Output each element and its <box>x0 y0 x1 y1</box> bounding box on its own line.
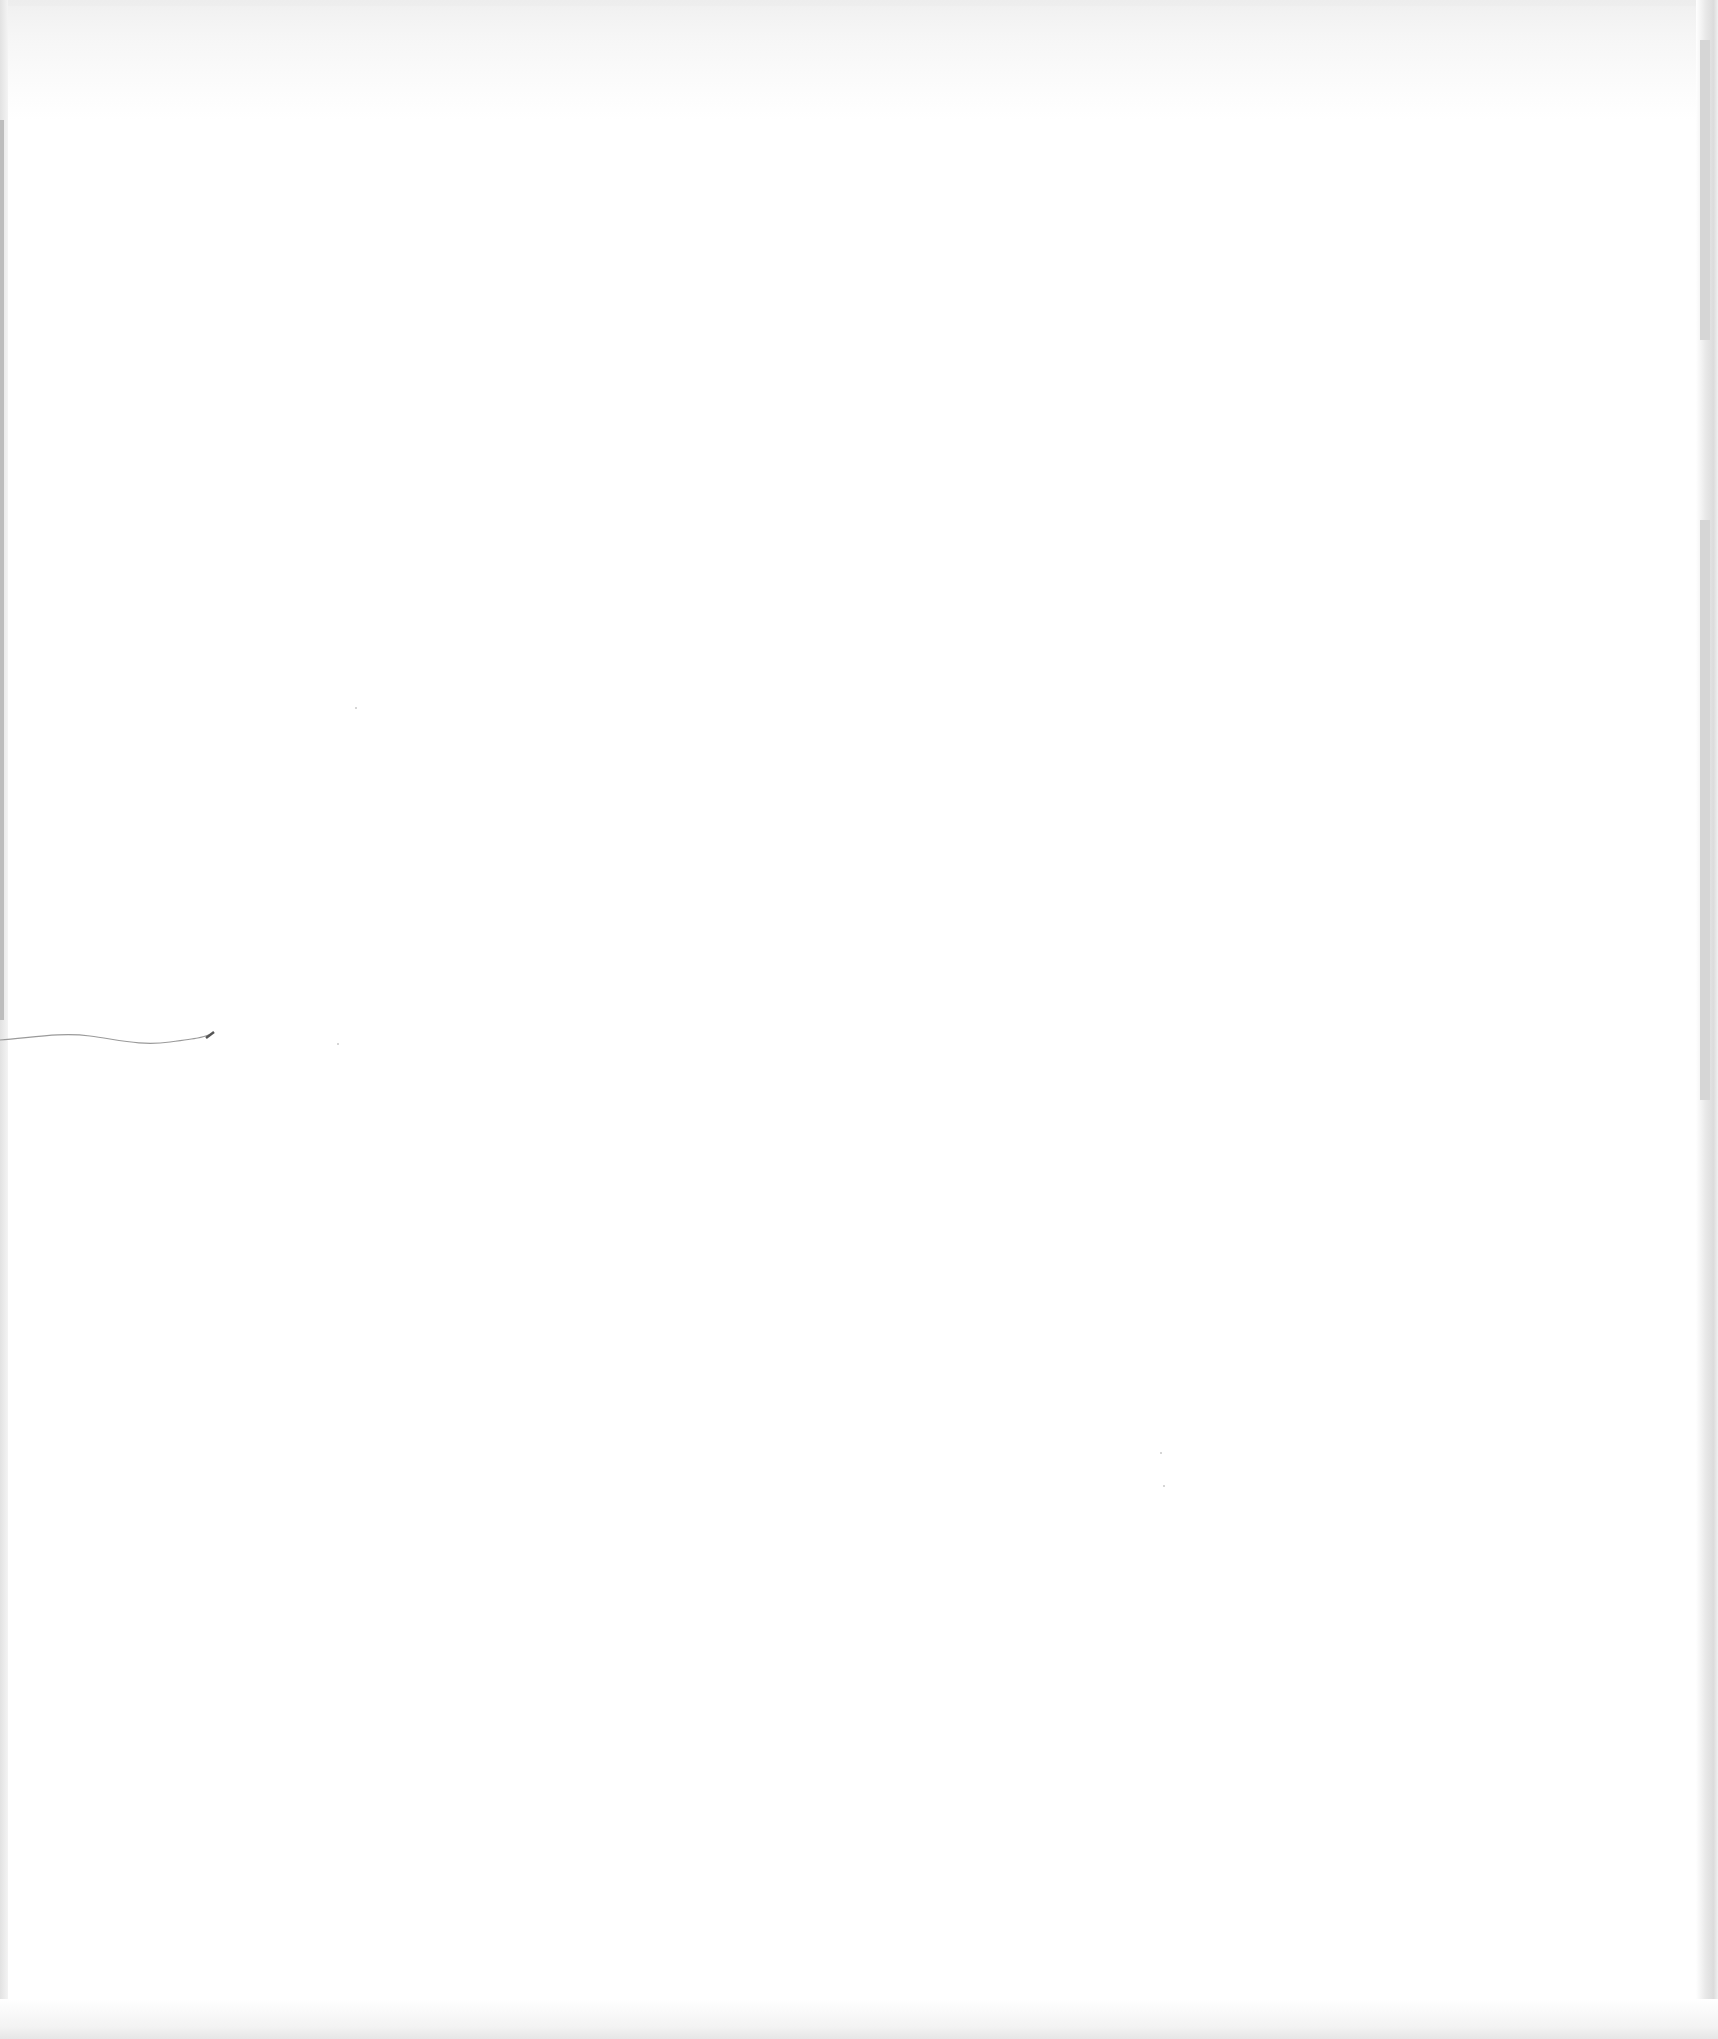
right-scan-shadow <box>1700 40 1710 340</box>
bleed-through-region <box>0 0 1700 120</box>
right-scan-shadow <box>1700 520 1710 1100</box>
pen-squiggle-mark <box>0 1020 220 1060</box>
left-binding-shadow <box>0 120 4 1020</box>
scanned-page <box>0 0 1718 2039</box>
dust-speck <box>1160 1452 1162 1454</box>
dust-speck <box>337 1043 339 1045</box>
bottom-scan-edge <box>0 1999 1718 2039</box>
dust-speck <box>1163 1485 1165 1487</box>
dust-speck <box>355 707 357 709</box>
